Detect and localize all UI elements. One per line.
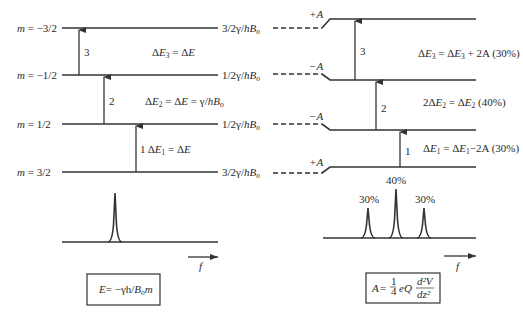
spectrum-peak-30-left	[361, 208, 375, 238]
m-label-minus-1-2: m = −1/2	[17, 69, 57, 81]
delta-e2-quad-label: 2ΔE2 = ΔE2 (40%)	[423, 96, 506, 110]
spectrum-peak-40	[389, 189, 403, 238]
transition-number-2: 2	[109, 95, 115, 107]
m-label-minus-3-2: m = −3/2	[17, 22, 57, 34]
quadrupole-level-line	[322, 124, 476, 130]
peak-label-40: 40%	[386, 174, 406, 186]
shift-label-plus-a: +A	[309, 156, 323, 168]
peak-label-30: 30%	[359, 193, 379, 205]
peak-label-30: 30%	[415, 193, 435, 205]
left-panel: m = −3/2 m = −1/2 m = 1/2 m = 3/2 3/2γ/h…	[17, 22, 260, 305]
energy-label: 3/2γ/hBo	[222, 22, 260, 36]
energy-label: 3/2γ/hBo	[222, 166, 260, 180]
m-label-3-2: m = 3/2	[17, 166, 51, 178]
frequency-axis-label: f	[456, 260, 461, 272]
svg-text:=: =	[380, 282, 386, 294]
delta-e1-label: 1 ΔE1 = ΔE	[140, 143, 191, 157]
transition-number-3: 3	[84, 46, 90, 58]
energy-label: 1/2γ/hBo	[222, 69, 260, 83]
quadrupole-level-line	[322, 167, 476, 173]
energy-label: 1/2γ/hBo	[222, 118, 260, 132]
delta-e3-quad-label: ΔE3 = ΔE3 + 2A (30%)	[418, 47, 520, 61]
frequency-axis-label: f	[199, 260, 204, 272]
shift-label-minus-a: −A	[309, 60, 323, 72]
delta-e2-label: ΔE2 = ΔE = γ/hBo	[145, 95, 224, 109]
svg-text:dz²: dz²	[417, 288, 431, 300]
transition-number-1: 1	[405, 145, 411, 157]
spectrum-peak	[108, 193, 122, 242]
zeeman-formula: E= −γh/Bom	[98, 283, 153, 297]
quadrupole-level-line	[322, 19, 476, 28]
shift-label-minus-a: −A	[309, 110, 323, 122]
transition-number-3: 3	[360, 45, 366, 57]
delta-e3-label: ΔE3 = ΔE	[152, 46, 195, 60]
right-panel: +A −A −A +A 3 2 1 ΔE3 = ΔE3 + 2A (30%) 2…	[273, 8, 520, 303]
m-label-1-2: m = 1/2	[17, 118, 51, 130]
svg-text:d²V: d²V	[417, 275, 434, 287]
transition-number-2: 2	[381, 102, 387, 114]
svg-text:eQ: eQ	[399, 282, 412, 294]
nmr-energy-level-diagram: m = −3/2 m = −1/2 m = 1/2 m = 3/2 3/2γ/h…	[0, 0, 523, 324]
svg-text:A: A	[371, 282, 379, 294]
spectrum-peak-30-right	[417, 208, 431, 238]
svg-text:4: 4	[391, 285, 397, 297]
quadrupole-level-line	[322, 74, 476, 80]
shift-label-plus-a: +A	[309, 8, 323, 20]
delta-e1-quad-label: ΔE1 = ΔE1−2A (30%)	[423, 142, 519, 156]
